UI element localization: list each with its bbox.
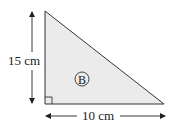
shape-label: B — [78, 73, 86, 87]
triangle-shape — [45, 11, 164, 104]
height-label: 15 cm — [8, 53, 40, 68]
base-label: 10 cm — [82, 108, 114, 123]
right-triangle-diagram: 15 cm 10 cm B — [0, 0, 172, 129]
